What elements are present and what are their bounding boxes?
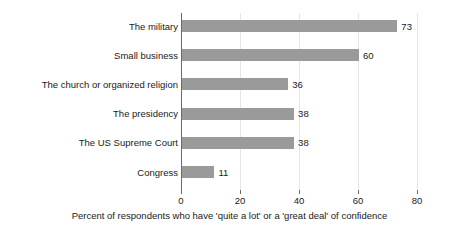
x-tick-mark (358, 190, 359, 194)
x-tick-mark (299, 190, 300, 194)
gridline (299, 13, 300, 190)
x-tick-label: 0 (161, 195, 201, 207)
gridline (240, 13, 241, 190)
bar (182, 20, 397, 32)
category-label: Small business (114, 50, 178, 62)
bar (182, 78, 288, 90)
bar-value-label: 38 (298, 108, 309, 120)
category-label: The US Supreme Court (79, 137, 178, 149)
category-label: The military (129, 21, 178, 33)
gridline (358, 13, 359, 190)
bar (182, 49, 359, 61)
bar-value-label: 36 (292, 79, 303, 91)
x-tick-mark (240, 190, 241, 194)
x-tick-mark (417, 190, 418, 194)
category-label: The presidency (113, 108, 178, 120)
category-label: Congress (137, 167, 178, 179)
plot-area: 020406080 The militarySmall businessThe … (0, 0, 459, 231)
x-tick-label: 20 (220, 195, 260, 207)
bar-value-label: 38 (298, 137, 309, 149)
bar (182, 108, 294, 120)
bar-value-label: 73 (401, 21, 412, 33)
bar (182, 166, 214, 178)
bar (182, 137, 294, 149)
x-tick-mark (181, 190, 182, 194)
x-tick-label: 80 (397, 195, 437, 207)
x-tick-label: 40 (279, 195, 319, 207)
gridline (417, 13, 418, 190)
x-tick-label: 60 (338, 195, 378, 207)
bar-value-label: 11 (218, 167, 228, 179)
y-axis-line (181, 13, 182, 190)
bar-chart: 020406080 The militarySmall businessThe … (0, 0, 459, 231)
x-axis-caption: Percent of respondents who have 'quite a… (0, 209, 459, 222)
category-label: The church or organized religion (42, 79, 178, 91)
bar-value-label: 60 (363, 50, 374, 62)
